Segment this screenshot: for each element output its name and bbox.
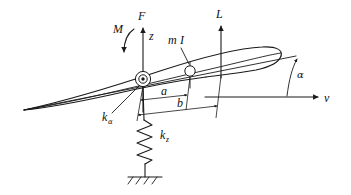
diagram-canvas: v α F z M L m I [0,0,351,195]
plunge-spring-zigzag-icon [137,120,152,164]
ground-hatch-1 [128,177,133,184]
ground-hatch-4 [152,177,157,184]
plunge-spring-group [137,87,152,177]
airfoil-group [24,47,296,110]
angle-of-attack-group [287,59,297,96]
angle-arc-alpha-icon [287,59,297,96]
z-axis-label: z [148,29,154,43]
velocity-label: v [324,91,330,105]
k-z-subscript: z [165,135,169,144]
elastic-axis-group [135,71,150,86]
mass-label-leader-line [181,48,189,64]
ground-hatch-2 [136,177,141,184]
airfoil-mean-line [24,53,281,110]
airfoil-upper-surface [24,47,281,110]
dim-extension-pivot [137,86,143,121]
force-F-label: F [137,9,146,23]
k-alpha-subscript: α [108,118,113,126]
dimension-b-label: b [177,96,183,110]
dimension-a-label: a [161,84,167,98]
chord-line [24,56,296,110]
mass-label: m [168,33,177,47]
dim-extension-mass [186,77,190,110]
elastic-axis-center-dot-icon [141,77,144,80]
moment-M-label: M [112,22,124,36]
ground-hatch-3 [144,177,149,184]
mass-center-node-icon [185,66,195,76]
inertia-label: I [179,33,185,47]
alpha-label: α [297,69,304,80]
airfoil-diagram-figure: v α F z M L m I [0,0,351,195]
spring-top-connector [143,87,144,120]
lift-L-label: L [215,7,223,21]
moment-M-group [124,29,134,52]
mass-center-group [181,48,195,88]
moment-M-curved-arrow-icon [124,29,134,52]
ground-support-group [128,177,162,184]
